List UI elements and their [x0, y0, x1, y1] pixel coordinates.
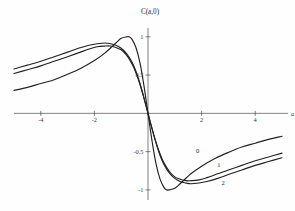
x-tick-label: -2 — [92, 116, 97, 123]
y-tick-label: 0.5 — [136, 71, 144, 78]
curve-label-0: 0 — [196, 147, 200, 154]
y-tick-label: 1 — [140, 33, 143, 40]
chart-title: C(a,0) — [141, 8, 160, 16]
axes-group — [14, 28, 288, 200]
x-axis-label: a — [291, 110, 294, 117]
chart-figure: -4-22410.5-0.5-1 012 C(a,0) a — [0, 0, 295, 211]
x-tick-label: 2 — [200, 116, 203, 123]
y-tick-label: -0.5 — [133, 148, 143, 155]
x-tick-label: -4 — [38, 116, 44, 123]
chart-plot-area: -4-22410.5-0.5-1 012 C(a,0) a — [0, 0, 295, 211]
x-tick-label: 4 — [254, 116, 258, 123]
y-tick-label: -1 — [138, 186, 143, 193]
curve-label-1: 1 — [217, 161, 220, 168]
curve-label-2: 2 — [221, 179, 224, 186]
